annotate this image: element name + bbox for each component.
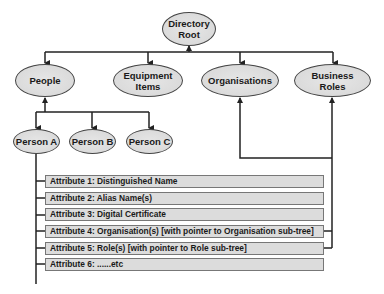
node-person-a: Person A	[13, 129, 60, 154]
attribute-3: Attribute 3: Digital Certificate	[45, 208, 324, 221]
attribute-5: Attribute 5: Role(s) [with pointer to Ro…	[45, 242, 324, 255]
node-person-b: Person B	[69, 129, 116, 154]
attribute-1: Attribute 1: Distinguished Name	[45, 175, 324, 188]
attribute-2: Attribute 2: Alias Name(s)	[45, 192, 324, 205]
node-organisations: Organisations	[201, 64, 279, 97]
node-person-c: Person C	[126, 129, 173, 154]
node-equipment-items: Equipment Items	[113, 64, 183, 97]
attribute-6: Attribute 6: ......etc	[45, 258, 324, 271]
node-directory-root: Directory Root	[162, 12, 216, 46]
attribute-4: Attribute 4: Organisation(s) [with point…	[45, 225, 324, 238]
node-business-roles: Business Roles	[294, 64, 371, 97]
node-people: People	[15, 64, 75, 97]
